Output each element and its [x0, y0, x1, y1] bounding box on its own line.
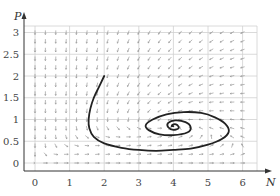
y-tick-label: 2: [13, 71, 19, 82]
tick-labels: 012345600.511.522.53: [3, 27, 246, 188]
plot-area: 012345600.511.522.53 N P: [0, 0, 280, 196]
phase-plane-figure: 012345600.511.522.53 N P: [0, 0, 280, 196]
y-axis-arrow-icon: [22, 12, 27, 19]
x-tick-label: 4: [170, 177, 176, 188]
x-tick-label: 6: [239, 177, 245, 188]
x-axis-arrow-icon: [265, 169, 272, 174]
x-tick-label: 2: [101, 177, 107, 188]
x-axis-label: N: [265, 176, 276, 189]
y-tick-label: 1: [13, 114, 19, 125]
y-axis-label: P: [13, 10, 22, 23]
y-tick-label: 3: [13, 27, 19, 38]
y-tick-label: 0: [13, 158, 19, 169]
x-tick-label: 5: [205, 177, 211, 188]
axes: [22, 12, 273, 174]
x-tick-label: 3: [136, 177, 142, 188]
y-tick-label: 1.5: [3, 92, 19, 103]
x-tick-label: 1: [66, 177, 72, 188]
y-tick-label: 2.5: [3, 49, 19, 60]
x-tick-label: 0: [32, 177, 38, 188]
y-tick-label: 0.5: [3, 136, 19, 147]
